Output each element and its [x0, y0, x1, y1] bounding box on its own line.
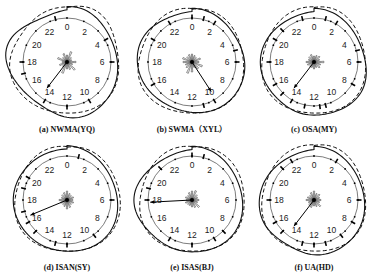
hour-tick-mark: [325, 241, 326, 246]
hour-label: 10: [80, 225, 90, 235]
hour-label: 20: [279, 40, 289, 50]
hour-tick-mark: [21, 211, 26, 212]
hour-label: 8: [220, 75, 225, 85]
circle-dot: [235, 61, 237, 63]
circle-dot: [354, 44, 356, 46]
circle-dot: [313, 105, 315, 107]
circle-dot: [25, 44, 27, 46]
panel-caption: (d) ISAN(SY): [44, 263, 91, 272]
mean-direction-arrow: [294, 62, 314, 88]
circle-dot: [107, 44, 109, 46]
circle-dot: [282, 30, 284, 32]
hour-label: 12: [187, 230, 197, 240]
hour-label: 2: [329, 165, 334, 175]
hour-label: 6: [225, 195, 230, 205]
hour-label: 2: [82, 165, 87, 175]
circle-dot: [150, 216, 152, 218]
circle-dot: [174, 20, 176, 22]
hour-label: 0: [190, 22, 195, 32]
panel-caption: (b) SWMA（XYL）: [157, 124, 227, 134]
circle-dot: [222, 92, 224, 94]
hour-label: 10: [205, 225, 215, 235]
circle-dot: [110, 61, 112, 63]
hour-label: 8: [220, 213, 225, 223]
circle-dot: [282, 230, 284, 232]
hour-tick-mark: [233, 50, 238, 51]
hour-label: 14: [45, 225, 55, 235]
hour-label: 16: [279, 75, 289, 85]
panel-b: 0246810121416182022(b) SWMA（XYL）: [137, 8, 245, 134]
panel-d: 0246810121416182022(d) ISAN(SY): [13, 146, 120, 272]
circle-dot: [282, 168, 284, 170]
hour-label: 6: [100, 195, 105, 205]
circle-dot: [282, 92, 284, 94]
circle-dot: [208, 158, 210, 160]
hour-tick-mark: [325, 103, 326, 108]
circle-dot: [110, 199, 112, 201]
circle-dot: [66, 105, 68, 107]
circle-dot: [272, 78, 274, 80]
circle-dot: [296, 20, 298, 22]
hour-label: 0: [65, 22, 70, 32]
hour-tick-mark: [203, 16, 204, 21]
circle-dot: [66, 17, 68, 19]
hour-label: 16: [157, 213, 167, 223]
hour-label: 12: [309, 230, 319, 240]
circle-dot: [344, 92, 346, 94]
hour-label: 0: [65, 160, 70, 170]
hour-label: 2: [329, 27, 334, 37]
circle-dot: [232, 182, 234, 184]
circle-dot: [83, 20, 85, 22]
hour-label: 10: [327, 87, 337, 97]
circle-dot: [25, 182, 27, 184]
hour-label: 12: [187, 92, 197, 102]
hour-label: 18: [27, 195, 37, 205]
hour-label: 16: [32, 75, 42, 85]
circle-dot: [147, 61, 149, 63]
hour-label: 4: [342, 40, 347, 50]
hour-tick-mark: [320, 104, 321, 109]
hour-label: 18: [274, 195, 284, 205]
clock-rose-figure: 0246810121416182022(a) NWMA(YQ)024681012…: [0, 0, 375, 277]
circle-dot: [83, 158, 85, 160]
circle-dot: [222, 30, 224, 32]
hour-label: 10: [80, 87, 90, 97]
hour-label: 22: [45, 165, 55, 175]
circle-dot: [344, 230, 346, 232]
hour-tick-mark: [21, 188, 26, 189]
hour-label: 0: [312, 160, 317, 170]
hour-label: 14: [170, 87, 180, 97]
circle-dot: [222, 230, 224, 232]
circle-dot: [296, 240, 298, 242]
circle-dot: [208, 20, 210, 22]
hour-label: 18: [274, 57, 284, 67]
circle-dot: [160, 230, 162, 232]
circle-dot: [107, 182, 109, 184]
hour-label: 12: [309, 92, 319, 102]
hour-tick-mark: [146, 188, 151, 189]
circle-dot: [35, 92, 37, 94]
hour-label: 6: [100, 57, 105, 67]
hour-label: 12: [62, 230, 72, 240]
hour-tick-mark: [78, 154, 79, 159]
hour-tick-mark: [203, 154, 204, 159]
hour-label: 2: [207, 165, 212, 175]
hour-label: 0: [312, 22, 317, 32]
hour-label: 22: [170, 165, 180, 175]
circle-dot: [83, 240, 85, 242]
circle-dot: [272, 216, 274, 218]
circle-dot: [49, 20, 51, 22]
hour-label: 14: [292, 87, 302, 97]
circle-dot: [354, 182, 356, 184]
circle-dot: [66, 155, 68, 157]
circle-dot: [35, 168, 37, 170]
hour-label: 20: [279, 178, 289, 188]
hour-label: 22: [45, 27, 55, 37]
hour-label: 20: [157, 178, 167, 188]
circle-dot: [269, 199, 271, 201]
circle-dot: [357, 61, 359, 63]
hour-label: 2: [207, 27, 212, 37]
panel-a: 0246810121416182022(a) NWMA(YQ): [6, 6, 119, 134]
circle-dot: [147, 199, 149, 201]
panel-caption: (e) ISAS(BJ): [170, 263, 214, 272]
